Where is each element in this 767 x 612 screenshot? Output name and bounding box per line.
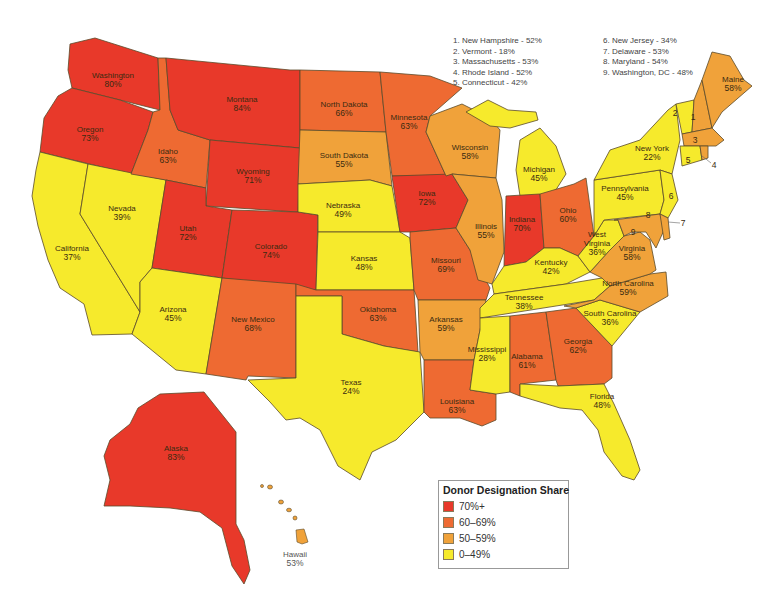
legend-title: Donor Designation Share (443, 484, 564, 496)
state-alaska (104, 392, 250, 584)
label-kansas-value: 48% (355, 262, 372, 272)
legend-item-70-plus: 70%+ (443, 498, 564, 514)
label-florida-value: 48% (593, 400, 610, 410)
label-virginia-value: 58% (623, 252, 640, 262)
footnote-item: 6. New Jersey - 34% (603, 36, 753, 47)
state-connecticut (680, 146, 702, 166)
footnote-item: 8. Maryland - 54% (603, 57, 753, 68)
label-new-york-value: 22% (643, 152, 660, 162)
label-missouri-value: 69% (437, 264, 454, 274)
label-idaho-value: 63% (159, 155, 176, 165)
state-hawaii (261, 485, 309, 545)
label-wyoming-value: 71% (244, 175, 261, 185)
us-choropleth-map: Washington 80% Oregon 73% California 37%… (0, 0, 767, 612)
legend-item-60-69: 60–69% (443, 514, 564, 530)
label-colorado-value: 74% (262, 250, 279, 260)
label-minnesota-value: 63% (400, 121, 417, 131)
label-tennessee-value: 38% (515, 301, 532, 311)
label-california-value: 37% (63, 252, 80, 262)
label-north-dakota-value: 66% (335, 108, 352, 118)
legend-item-0-49: 0–49% (443, 546, 564, 562)
label-oklahoma-value: 63% (369, 313, 386, 323)
label-north-carolina-value: 59% (619, 287, 636, 297)
map-legend: Donor Designation Share 70%+ 60–69% 50–5… (438, 480, 569, 569)
marker-3: 3 (693, 135, 698, 145)
legend-swatch-50-59 (443, 533, 454, 544)
legend-swatch-60-69 (443, 517, 454, 528)
label-oregon-value: 73% (81, 133, 98, 143)
legend-label: 50–59% (459, 533, 496, 544)
label-alaska-value: 83% (167, 452, 184, 462)
footnote-item: 3. Massachusetts - 53% (453, 57, 603, 68)
label-nevada-value: 39% (113, 212, 130, 222)
footnotes-left-column: 1. New Hampshire - 52% 2. Vermont - 18% … (453, 36, 603, 89)
label-south-carolina-value: 36% (601, 317, 618, 327)
label-utah-value: 72% (179, 232, 196, 242)
label-wisconsin-value: 58% (461, 151, 478, 161)
marker-6: 6 (669, 191, 674, 201)
marker-8: 8 (646, 210, 651, 220)
legend-item-50-59: 50–59% (443, 530, 564, 546)
footnote-item: 9. Washington, DC - 48% (603, 68, 753, 79)
label-mississippi-value: 28% (478, 353, 495, 363)
label-michigan-value: 45% (530, 173, 547, 183)
marker-2: 2 (673, 108, 678, 118)
legend-swatch-0-49 (443, 549, 454, 560)
label-new-mexico-value: 68% (244, 323, 261, 333)
label-alabama-value: 61% (518, 360, 535, 370)
label-hawaii-value: 53% (286, 558, 303, 568)
label-nebraska-value: 49% (334, 209, 351, 219)
label-texas-value: 24% (342, 386, 359, 396)
footnote-item: 5. Connecticut - 42% (453, 78, 603, 89)
state-new-york (594, 104, 680, 180)
small-state-footnotes: 1. New Hampshire - 52% 2. Vermont - 18% … (453, 36, 753, 89)
label-kentucky-value: 42% (542, 266, 559, 276)
label-montana-value: 84% (233, 103, 250, 113)
label-illinois-value: 55% (477, 230, 494, 240)
legend-label: 0–49% (459, 549, 490, 560)
legend-label: 70%+ (459, 501, 485, 512)
marker-5: 5 (686, 155, 691, 165)
marker-4: 4 (712, 160, 717, 170)
label-iowa-value: 72% (418, 197, 435, 207)
footnote-item: 7. Delaware - 53% (603, 47, 753, 58)
footnote-item: 2. Vermont - 18% (453, 47, 603, 58)
state-florida (520, 384, 640, 480)
label-south-dakota-value: 55% (335, 159, 352, 169)
label-arkansas-value: 59% (437, 323, 454, 333)
footnote-item: 4. Rhode Island - 52% (453, 68, 603, 79)
label-arizona-value: 45% (164, 313, 181, 323)
marker-1: 1 (691, 112, 696, 122)
label-pennsylvania-value: 45% (616, 192, 633, 202)
marker-7: 7 (681, 218, 686, 228)
label-georgia-value: 62% (569, 345, 586, 355)
footnote-item: 1. New Hampshire - 52% (453, 36, 603, 47)
label-ohio-value: 60% (559, 214, 576, 224)
footnotes-right-column: 6. New Jersey - 34% 7. Delaware - 53% 8.… (603, 36, 753, 89)
legend-label: 60–69% (459, 517, 496, 528)
label-washington-value: 80% (104, 79, 121, 89)
legend-swatch-70-plus (443, 501, 454, 512)
label-louisiana-value: 63% (448, 405, 465, 415)
marker-9: 9 (631, 227, 636, 237)
label-west-virginia-value: 36% (588, 247, 605, 257)
label-west-virginia-name: West (588, 230, 607, 239)
state-michigan (516, 128, 566, 196)
label-indiana-value: 70% (513, 223, 530, 233)
